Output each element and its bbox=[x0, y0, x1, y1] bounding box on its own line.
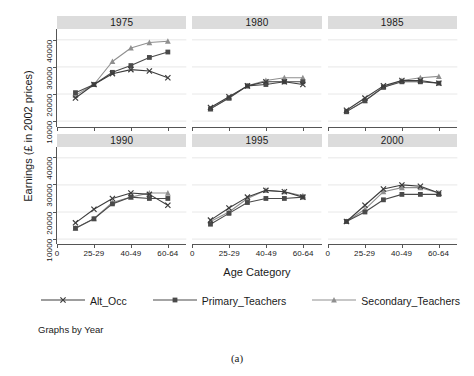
x-tick-mark bbox=[303, 127, 304, 131]
x-axis-cell bbox=[328, 127, 457, 145]
panel-title: 1975 bbox=[57, 16, 186, 29]
legend-label: Alt_Occ bbox=[90, 295, 127, 307]
x-tick-label: 0 bbox=[190, 249, 195, 258]
facet-panel-2000: 2000 bbox=[328, 134, 457, 245]
x-tick-mark bbox=[131, 244, 132, 248]
x-axis-cell: 025-2940-4960-64 bbox=[57, 244, 186, 262]
panel-plot-area bbox=[328, 29, 457, 127]
x-axis-cell: 025-2940-4960-64 bbox=[192, 244, 321, 262]
x-tick-label: 40-49 bbox=[120, 249, 141, 258]
x-tick-mark bbox=[266, 244, 267, 248]
x-tick-mark bbox=[365, 244, 366, 248]
graphs-by-note: Graphs by Year bbox=[38, 324, 104, 335]
x-tick-label: 60-64 bbox=[293, 249, 314, 258]
x-tick-mark bbox=[328, 127, 329, 131]
x-tick-mark bbox=[266, 127, 267, 131]
x-tick-mark bbox=[94, 127, 95, 131]
x-tick-mark bbox=[402, 127, 403, 131]
facet-panel-1980: 1980 bbox=[192, 16, 321, 127]
y-tick-label: 30000 bbox=[45, 184, 54, 207]
y-axis-top-row: 10000200003000040000 bbox=[0, 29, 57, 127]
facet-panel-1975: 1975 bbox=[57, 16, 186, 127]
panel-plot-area bbox=[57, 147, 186, 245]
figure-caption: (a) bbox=[0, 352, 474, 364]
y-axis-bottom-row: 10000200003000040000 bbox=[0, 147, 57, 245]
x-tick-mark bbox=[328, 244, 329, 248]
legend-label: Secondary_Teachers bbox=[361, 295, 460, 307]
y-tick-label: 20000 bbox=[45, 94, 54, 117]
y-tick-label: 20000 bbox=[45, 211, 54, 234]
x-tick-mark bbox=[192, 127, 193, 131]
y-tick-label: 10000 bbox=[45, 121, 54, 144]
x-axis-title: Age Category bbox=[57, 266, 457, 278]
x-tick-mark bbox=[365, 127, 366, 131]
y-tick-label: 40000 bbox=[45, 157, 54, 180]
x-tick-mark bbox=[168, 244, 169, 248]
x-tick-mark bbox=[229, 127, 230, 131]
panel-plot-area bbox=[192, 147, 321, 245]
x-tick-label: 25-29 bbox=[219, 249, 240, 258]
y-tick-label: 40000 bbox=[45, 39, 54, 62]
x-tick-mark bbox=[229, 244, 230, 248]
x-axis-bottom-row: 025-2940-4960-64025-2940-4960-64025-2940… bbox=[57, 244, 457, 262]
x-tick-mark bbox=[168, 127, 169, 131]
x-tick-label: 40-49 bbox=[391, 249, 412, 258]
facet-panel-1985: 1985 bbox=[328, 16, 457, 127]
legend-item-secondary_teachers[interactable]: Secondary_Teachers bbox=[311, 292, 460, 310]
triangle-marker bbox=[311, 292, 357, 310]
x-axis-cell: 025-2940-4960-64 bbox=[328, 244, 457, 262]
x-tick-label: 0 bbox=[55, 249, 60, 258]
x-tick-mark bbox=[303, 244, 304, 248]
facet-panel-1990: 1990 bbox=[57, 134, 186, 245]
x-tick-mark bbox=[192, 244, 193, 248]
x-marker bbox=[40, 292, 86, 310]
panel-plot-area bbox=[192, 29, 321, 127]
legend-item-primary_teachers[interactable]: Primary_Teachers bbox=[152, 292, 287, 310]
x-axis-top-row bbox=[57, 127, 457, 145]
x-axis-cell bbox=[57, 127, 186, 145]
facet-panel-1995: 1995 bbox=[192, 134, 321, 245]
panel-title: 1985 bbox=[328, 16, 457, 29]
panel-plot-area bbox=[57, 29, 186, 127]
panel-title: 1980 bbox=[192, 16, 321, 29]
x-tick-mark bbox=[94, 244, 95, 248]
legend-item-alt_occ[interactable]: Alt_Occ bbox=[40, 292, 127, 310]
x-tick-mark bbox=[439, 244, 440, 248]
y-tick-label: 10000 bbox=[45, 238, 54, 261]
figure-root: Earnings (£ in 2002 prices) 100002000030… bbox=[0, 0, 474, 376]
y-tick-label: 30000 bbox=[45, 66, 54, 89]
square-marker bbox=[152, 292, 198, 310]
x-tick-mark bbox=[57, 127, 58, 131]
x-tick-label: 25-29 bbox=[354, 249, 375, 258]
x-tick-label: 25-29 bbox=[83, 249, 104, 258]
x-tick-mark bbox=[57, 244, 58, 248]
x-tick-label: 60-64 bbox=[428, 249, 449, 258]
chart-legend: Alt_Occ Primary_Teachers Secondary_Teach… bbox=[40, 292, 460, 310]
x-tick-label: 40-49 bbox=[256, 249, 277, 258]
x-axis-cell bbox=[192, 127, 321, 145]
x-tick-mark bbox=[131, 127, 132, 131]
x-tick-label: 60-64 bbox=[157, 249, 178, 258]
x-tick-label: 0 bbox=[325, 249, 330, 258]
panel-plot-area bbox=[328, 147, 457, 245]
x-tick-mark bbox=[402, 244, 403, 248]
x-tick-mark bbox=[439, 127, 440, 131]
legend-label: Primary_Teachers bbox=[202, 295, 287, 307]
